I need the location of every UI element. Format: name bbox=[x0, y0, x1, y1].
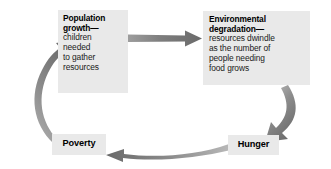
node-environmental-degradation-body-line4: food grows bbox=[209, 64, 310, 74]
arrow-hunger-to-poverty bbox=[106, 144, 231, 162]
arrow-population-to-environmental bbox=[128, 31, 202, 47]
node-hunger-label: Hunger bbox=[228, 139, 279, 150]
node-population-growth-body-line4: resources bbox=[63, 63, 128, 73]
node-environmental-degradation: Environmental degradation— resources dwi… bbox=[203, 11, 310, 85]
node-poverty: Poverty bbox=[52, 134, 106, 155]
arrow-environmental-to-hunger bbox=[265, 85, 296, 142]
node-poverty-label: Poverty bbox=[52, 138, 106, 149]
node-population-growth: Population growth— children needed to ga… bbox=[58, 10, 128, 93]
node-hunger: Hunger bbox=[228, 135, 279, 155]
cycle-diagram: Population growth— children needed to ga… bbox=[0, 0, 331, 169]
